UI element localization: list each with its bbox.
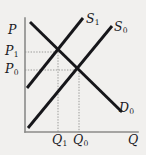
- price-tick-p1-text: P: [5, 43, 14, 58]
- curve-label-s0: S0: [114, 21, 128, 34]
- quantity-tick-q0: Q0: [73, 134, 88, 147]
- price-tick-p1: P1: [5, 45, 18, 58]
- curve-label-d0: D0: [119, 102, 134, 115]
- y-axis-label: P: [8, 24, 17, 37]
- price-tick-p0-sub: 0: [14, 68, 19, 77]
- curve-label-d0-text: D: [119, 100, 129, 115]
- curve-label-s1: S1: [86, 13, 100, 26]
- curves: [27, 18, 122, 128]
- price-tick-p1-sub: 1: [14, 50, 19, 59]
- supply-curve-s0: [28, 26, 112, 128]
- price-tick-p0-text: P: [5, 61, 14, 76]
- curve-label-s0-sub: 0: [123, 26, 128, 35]
- price-tick-p0: P0: [5, 63, 18, 76]
- quantity-tick-q0-text: Q: [73, 132, 83, 147]
- curve-label-s0-text: S: [114, 19, 123, 34]
- quantity-tick-q1-text: Q: [52, 132, 62, 147]
- x-axis-label: Q: [128, 134, 138, 147]
- curve-label-s1-sub: 1: [95, 18, 100, 27]
- curve-label-s1-text: S: [86, 11, 95, 26]
- quantity-tick-q1: Q1: [52, 134, 67, 147]
- curve-label-d0-sub: 0: [129, 107, 134, 116]
- quantity-tick-q0-sub: 0: [84, 139, 89, 148]
- supply-demand-diagram: P Q P1 P0 Q1 Q0 S1 S0 D0: [0, 0, 146, 155]
- quantity-tick-q1-sub: 1: [63, 139, 68, 148]
